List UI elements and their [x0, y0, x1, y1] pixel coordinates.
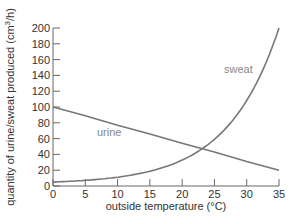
y-tick-label: 200	[32, 22, 50, 34]
urine-label: urine	[97, 126, 121, 138]
y-tick-label: 40	[38, 148, 50, 160]
x-axis-label: outside temperature (°C)	[106, 200, 227, 212]
x-tick-label: 15	[144, 188, 156, 200]
y-tick-label: 60	[38, 133, 50, 145]
x-tick-label: 25	[208, 188, 220, 200]
curves	[53, 28, 279, 182]
sweat-line	[53, 28, 279, 182]
x-tick-label: 20	[176, 188, 188, 200]
y-tick-label: 20	[38, 164, 50, 176]
x-tick-label: 10	[111, 188, 123, 200]
y-tick-label: 80	[38, 117, 50, 129]
sweat-label: sweat	[224, 63, 253, 75]
y-tick-label: 120	[32, 85, 50, 97]
line-chart: 0204060801001201401601802000510152025303…	[0, 0, 289, 216]
urine-line	[53, 107, 279, 170]
y-tick-label: 100	[32, 101, 50, 113]
y-tick-label: 180	[32, 38, 50, 50]
x-tick-label: 35	[273, 188, 285, 200]
y-tick-label: 160	[32, 54, 50, 66]
y-axis-label: quantity of urine/sweat produced (cm3/h)	[3, 8, 16, 206]
y-tick-label: 140	[32, 69, 50, 81]
x-tick-label: 5	[82, 188, 88, 200]
x-tick-label: 30	[241, 188, 253, 200]
x-tick-label: 0	[50, 188, 56, 200]
